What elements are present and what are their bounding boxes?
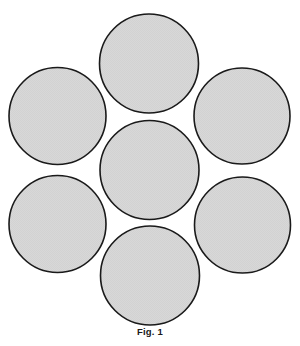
figure-drawing-area [0,0,300,330]
figure-page: Fig. 1 [0,0,300,346]
figure-caption: Fig. 1 [0,325,300,338]
circle-center [100,121,199,220]
circle-bottom [101,226,200,325]
circle-lower-left [9,176,106,273]
circle-top [100,14,199,113]
circle-lower-right [195,177,291,273]
circle-packing-diagram [0,0,300,330]
circle-upper-right [194,68,290,164]
circle-upper-left [9,68,106,165]
